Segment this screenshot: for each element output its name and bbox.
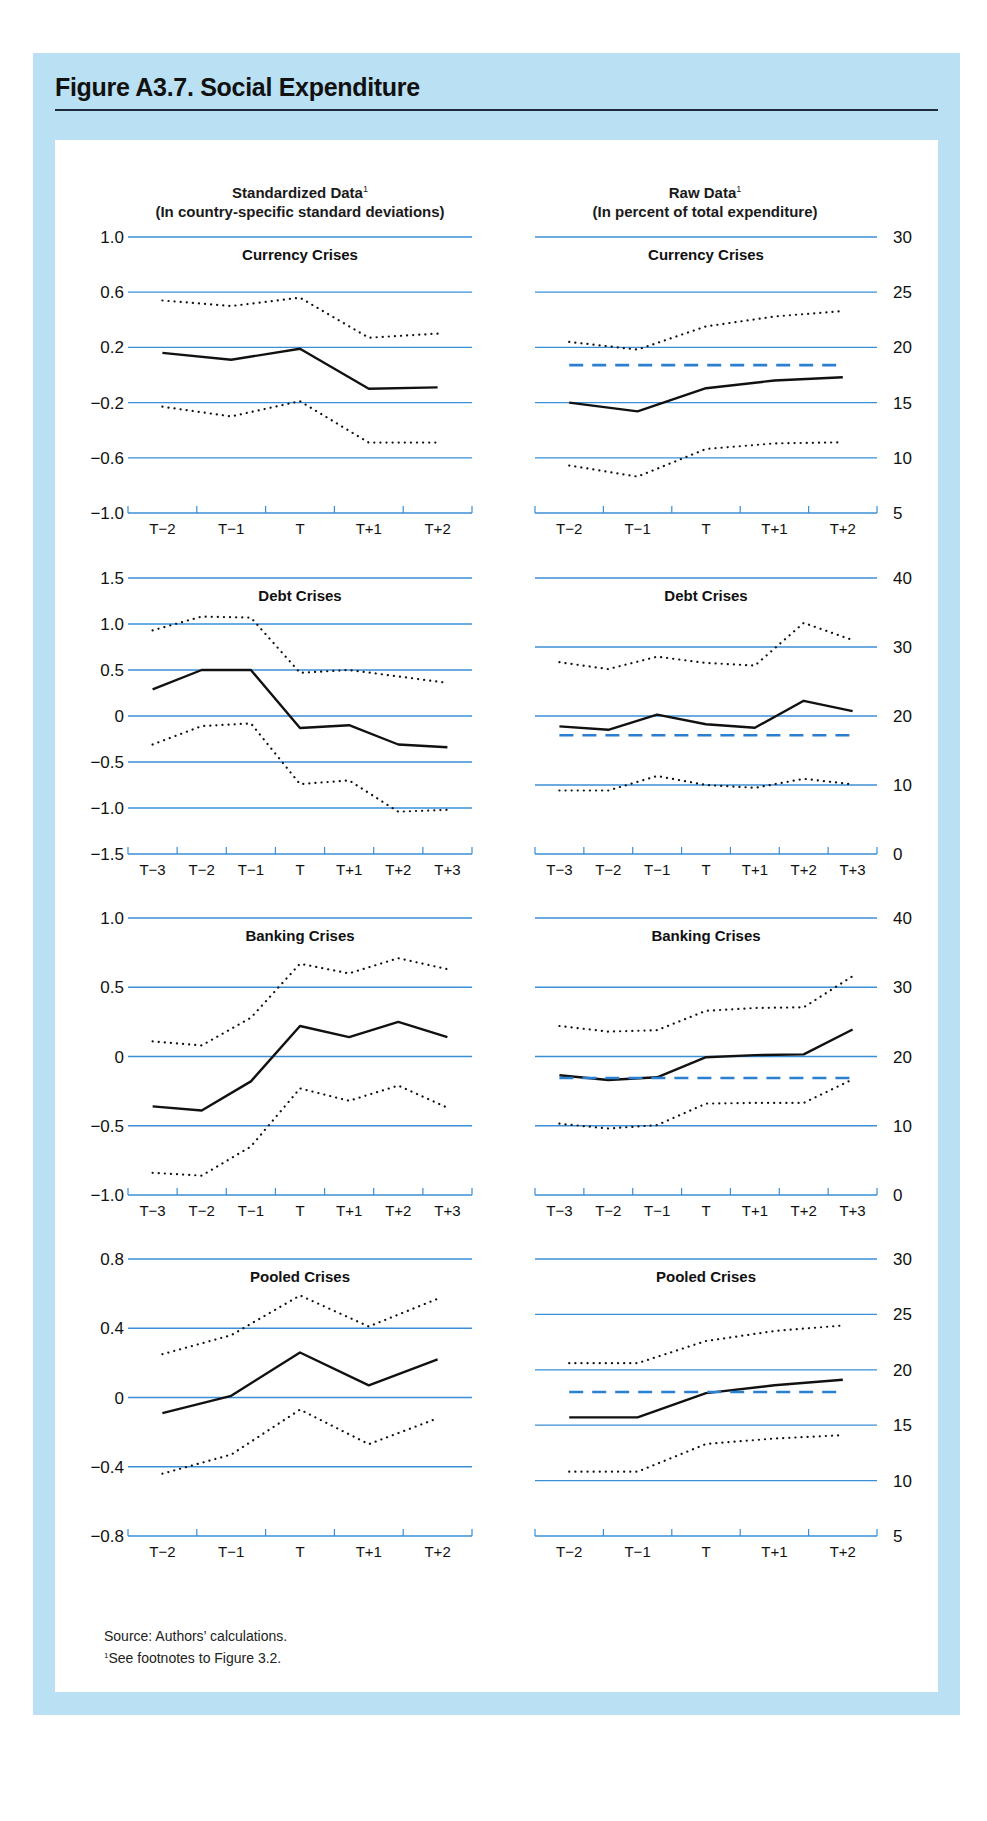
y-tick-label: 0 [115,1048,124,1067]
x-tick-label: T+2 [424,520,450,537]
y-tick-label: −1.0 [90,1186,124,1205]
x-tick-label: T−1 [238,1202,264,1219]
y-tick-label: −1.0 [90,799,124,818]
x-tick-label: T−1 [624,1543,650,1560]
mean-line [569,377,843,411]
y-tick-label: 20 [893,707,912,726]
y-tick-label: −0.5 [90,1117,124,1136]
x-tick-label: T+1 [356,520,382,537]
x-tick-label: T+1 [761,1543,787,1560]
x-tick-label: T−2 [149,1543,175,1560]
y-tick-label: 0.6 [100,283,124,302]
y-tick-label: 0.2 [100,338,124,357]
chart-pooled-crises-raw: 30252015105T−2T−1TT+1T+2Pooled Crises [535,1250,912,1560]
y-tick-label: 0.8 [100,1250,124,1269]
y-tick-label: 20 [893,1361,912,1380]
y-tick-label: 10 [893,1472,912,1491]
x-tick-label: T [701,1543,710,1560]
y-tick-label: 10 [893,1117,912,1136]
confidence-band-line [569,311,843,350]
x-tick-label: T+2 [830,520,856,537]
x-tick-label: T [295,1543,304,1560]
y-tick-label: 30 [893,978,912,997]
confidence-band-line [153,958,448,1045]
x-tick-label: T−2 [189,1202,215,1219]
x-tick-label: T−1 [218,520,244,537]
x-tick-label: T−2 [595,1202,621,1219]
x-tick-label: T−2 [595,861,621,878]
y-tick-label: −1.0 [90,504,124,523]
x-tick-label: T−1 [644,1202,670,1219]
mean-line [153,1022,448,1111]
confidence-band-line [559,623,852,669]
y-tick-label: −0.5 [90,753,124,772]
confidence-band-line [559,976,852,1031]
confidence-band-line [162,1410,437,1474]
x-tick-label: T+3 [839,861,865,878]
y-tick-label: 30 [893,638,912,657]
mean-line [569,1380,843,1418]
confidence-band-line [569,442,843,476]
y-tick-label: 40 [893,569,912,588]
chart-title: Debt Crises [664,587,747,604]
x-tick-label: T [295,1202,304,1219]
y-tick-label: 0.4 [100,1319,124,1338]
y-tick-label: 1.5 [100,569,124,588]
confidence-band-line [162,298,437,338]
y-tick-label: 25 [893,283,912,302]
x-tick-label: T+2 [791,1202,817,1219]
x-tick-label: T+2 [385,861,411,878]
charts-canvas: 1.00.60.2−0.2−0.6−1.0T−2T−1TT+1T+2Curren… [0,0,987,1821]
x-tick-label: T+3 [434,861,460,878]
mean-line [153,670,448,747]
chart-title: Pooled Crises [250,1268,350,1285]
confidence-band-line [569,1435,843,1472]
y-tick-label: 1.0 [100,228,124,247]
y-tick-label: 5 [893,1527,902,1546]
x-tick-label: T [295,520,304,537]
y-tick-label: 15 [893,394,912,413]
confidence-band-line [153,723,448,811]
x-tick-label: T+1 [742,1202,768,1219]
chart-title: Pooled Crises [656,1268,756,1285]
y-tick-label: −0.2 [90,394,124,413]
x-tick-label: T−1 [644,861,670,878]
y-tick-label: 1.0 [100,615,124,634]
x-tick-label: T−1 [218,1543,244,1560]
confidence-band-line [559,1079,852,1128]
confidence-band-line [162,401,437,442]
y-tick-label: 20 [893,1048,912,1067]
mean-line [559,1030,852,1081]
source-note: Source: Authors’ calculations. 1See foot… [104,1626,287,1668]
y-tick-label: 25 [893,1305,912,1324]
x-tick-label: T+3 [434,1202,460,1219]
chart-title: Currency Crises [648,246,764,263]
chart-title: Currency Crises [242,246,358,263]
y-tick-label: 0 [893,845,902,864]
x-tick-label: T+1 [356,1543,382,1560]
x-tick-label: T−2 [556,520,582,537]
chart-banking-crises-standardized: 1.00.50−0.5−1.0T−3T−2T−1TT+1T+2T+3Bankin… [90,909,472,1219]
y-tick-label: −0.4 [90,1458,124,1477]
x-tick-label: T+2 [791,861,817,878]
x-tick-label: T−3 [139,861,165,878]
mean-line [162,1353,437,1414]
y-tick-label: 0.5 [100,978,124,997]
y-tick-label: 30 [893,228,912,247]
chart-debt-crises-standardized: 1.51.00.50−0.5−1.0−1.5T−3T−2T−1TT+1T+2T+… [90,569,472,878]
y-tick-label: 10 [893,776,912,795]
confidence-band-line [153,1086,448,1176]
x-tick-label: T+2 [424,1543,450,1560]
chart-title: Banking Crises [245,927,354,944]
x-tick-label: T+1 [336,861,362,878]
x-tick-label: T−2 [149,520,175,537]
x-tick-label: T−3 [139,1202,165,1219]
x-tick-label: T−2 [189,861,215,878]
y-tick-label: 0 [893,1186,902,1205]
chart-currency-crises-raw: 30252015105T−2T−1TT+1T+2Currency Crises [535,228,912,537]
x-tick-label: T [701,1202,710,1219]
x-tick-label: T+2 [830,1543,856,1560]
mean-line [162,349,437,389]
y-tick-label: 5 [893,504,902,523]
x-tick-label: T [701,520,710,537]
